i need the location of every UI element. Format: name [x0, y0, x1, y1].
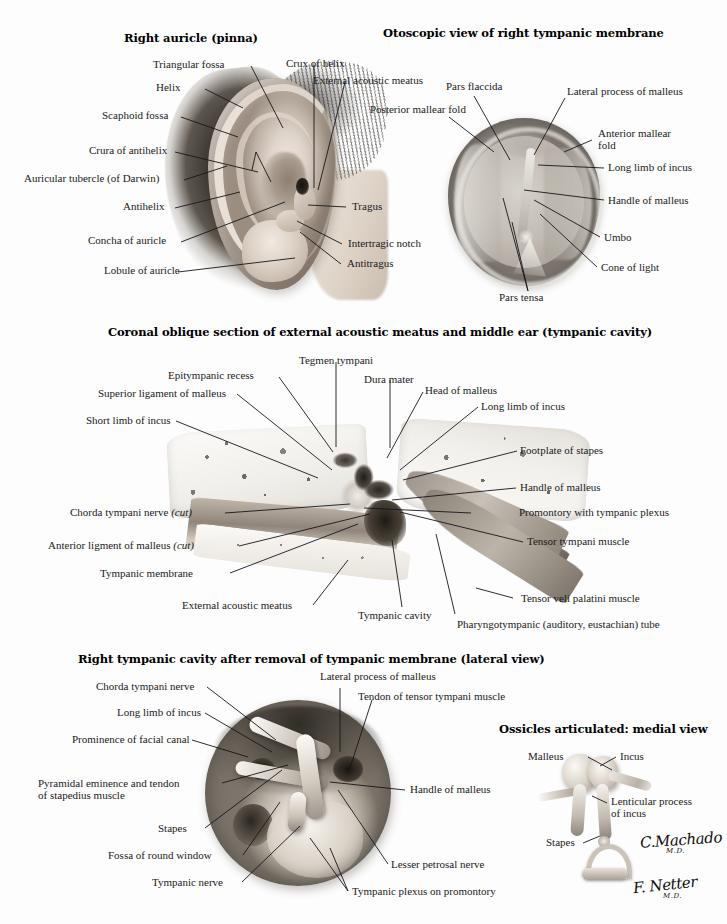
label-tragus: Tragus — [352, 200, 382, 212]
signature-netter-credential: M.D. — [663, 892, 727, 900]
panel-title-tympanic-cavity: Right tympanic cavity after removal of t… — [78, 652, 545, 666]
label-anterior-mallear-fold-text: Anterior mallear fold — [598, 127, 671, 151]
label-external-acoustic-meatus: External acoustic meatus — [313, 74, 423, 86]
label-antihelix: Antihelix — [123, 200, 165, 212]
label-handle-of-malleus-tm: Handle of malleus — [608, 194, 689, 206]
external-acoustic-meatus-opening — [296, 178, 309, 195]
label-intertragic-notch: Intertragic notch — [348, 237, 421, 249]
label-tegmen-tympani: Tegmen tympani — [299, 354, 373, 366]
label-pars-flaccida: Pars flaccida — [446, 80, 503, 92]
label-anterior-ligment-of-malleus-cut: Anterior ligment of malleus (cut) — [48, 539, 194, 551]
label-stapes-cavity: Stapes — [158, 822, 187, 834]
label-malleus: Malleus — [528, 750, 563, 762]
posterior-quadrant — [454, 144, 500, 262]
label-handle-of-malleus-coronal: Handle of malleus — [520, 481, 601, 493]
label-long-limb-of-incus-cavity: Long limb of incus — [117, 706, 201, 718]
label-superior-ligament-of-malleus: Superior ligament of malleus — [98, 387, 226, 399]
label-epitympanic-recess: Epitympanic recess — [168, 369, 254, 381]
signature-machado: C.Machado M.D. — [640, 831, 722, 857]
label-stapes-ossicles: Stapes — [546, 836, 575, 848]
label-tympanic-cavity: Tympanic cavity — [358, 609, 431, 621]
label-scaphoid-fossa: Scaphoid fossa — [102, 109, 168, 121]
label-umbo: Umbo — [604, 231, 632, 243]
label-crux-of-helix: Crux of helix — [286, 57, 345, 69]
panel-title-coronal: Coronal oblique section of external acou… — [108, 325, 652, 339]
label-pyramidal-eminence-line2: of stapedius muscle — [38, 789, 125, 801]
label-lateral-process-of-malleus: Lateral process of malleus — [567, 85, 683, 97]
label-auricular-tubercle: Auricular tubercle (of Darwin) — [24, 172, 159, 184]
stapes-footplate — [582, 868, 628, 880]
label-tympanic-plexus-on-promontory: Tympanic plexus on promontory — [352, 885, 496, 897]
incus-long-limb — [596, 784, 612, 841]
label-triangular-fossa: Triangular fossa — [153, 58, 224, 70]
label-anterior-mallear-fold: Anterior mallear fold — [598, 127, 674, 151]
label-long-limb-of-incus-tm: Long limb of incus — [608, 161, 692, 173]
label-long-limb-of-incus-coronal: Long limb of incus — [481, 400, 565, 412]
label-incus: Incus — [620, 750, 644, 762]
incus-short-limb — [607, 770, 652, 792]
label-fossa-of-round-window: Fossa of round window — [108, 849, 212, 861]
panel-title-otoscopic: Otoscopic view of right tympanic membran… — [383, 26, 664, 40]
label-handle-of-malleus-cavity: Handle of malleus — [410, 783, 491, 795]
label-prominence-of-facial-canal: Prominence of facial canal — [72, 733, 190, 745]
ossicle-chain — [320, 444, 404, 518]
label-lesser-petrosal-nerve: Lesser petrosal nerve — [391, 858, 484, 870]
label-pyramidal-eminence-line1: Pyramidal eminence and tendon — [38, 777, 179, 789]
label-tensor-tympani-muscle: Tensor tympani muscle — [527, 535, 630, 547]
label-pharyngotympanic-tube: Pharyngotympanic (auditory, eustachian) … — [457, 618, 660, 630]
label-chorda-tympani-nerve-text: Chorda tympani nerve — [70, 506, 171, 518]
label-anterior-ligment-cut-note: (cut) — [173, 539, 194, 551]
label-concha-of-auricle: Concha of auricle — [88, 234, 166, 246]
signature-machado-credential: M.D. — [666, 847, 727, 855]
tympanic-cavity-illustration — [205, 700, 395, 890]
label-dura-mater: Dura mater — [364, 373, 414, 385]
label-chorda-tympani-nerve-cavity: Chorda tympani nerve — [96, 680, 194, 692]
label-crura-of-antihelix: Crura of antihelix — [89, 144, 167, 156]
label-chorda-tympani-nerve-cut: Chorda tympani nerve (cut) — [70, 506, 192, 518]
label-tympanic-membrane: Tympanic membrane — [100, 567, 193, 579]
label-tympanic-nerve: Tympanic nerve — [152, 876, 223, 888]
signature-netter: F. Netter M.D. — [633, 876, 697, 902]
label-chorda-tympani-nerve-cut-note: (cut) — [171, 506, 192, 518]
label-lateral-process-of-malleus-cavity: Lateral process of malleus — [320, 670, 436, 682]
label-promontory-with-tympanic-plexus: Promontory with tympanic plexus — [519, 506, 669, 518]
anterior-quadrant — [544, 148, 592, 260]
anatomy-plate: Right auricle (pinna) Otoscopic view of … — [0, 0, 727, 924]
label-footplate-of-stapes: Footplate of stapes — [520, 444, 603, 456]
label-helix: Helix — [156, 81, 180, 93]
label-posterior-mallear-fold: Posterior mallear fold — [370, 103, 466, 115]
label-lobule-of-auricle: Lobule of auricle — [104, 264, 180, 276]
label-tensor-veli-palatini-muscle: Tensor veli palatini muscle — [521, 592, 640, 604]
label-antitragus: Antitragus — [347, 257, 393, 269]
label-anterior-ligment-of-malleus-text: Anterior ligment of malleus — [48, 539, 173, 551]
label-tendon-of-tensor-tympani-muscle: Tendon of tensor tympani muscle — [358, 690, 505, 702]
label-pars-tensa: Pars tensa — [499, 291, 543, 303]
malleus-handle — [570, 784, 587, 837]
panel-title-ossicles: Ossicles articulated: medial view — [499, 722, 707, 736]
label-lenticular-process-line2: of incus — [611, 807, 646, 819]
label-external-acoustic-meatus-coronal: External acoustic meatus — [182, 599, 292, 611]
cavity-recess-posterior — [333, 756, 363, 782]
label-lenticular-process-line1: Lenticular process — [611, 795, 692, 807]
label-head-of-malleus: Head of malleus — [425, 384, 497, 396]
panel-title-auricle: Right auricle (pinna) — [124, 31, 258, 45]
label-short-limb-of-incus: Short limb of incus — [86, 414, 171, 426]
tympanic-membrane-illustration — [448, 118, 608, 290]
label-cone-of-light: Cone of light — [601, 261, 659, 273]
